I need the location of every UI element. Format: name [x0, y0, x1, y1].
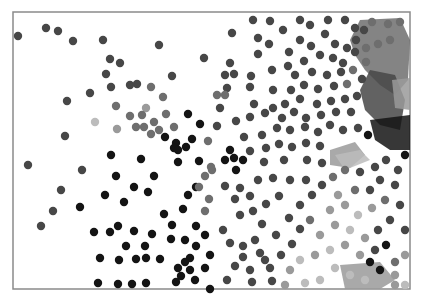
data-dot	[287, 86, 295, 94]
data-dot	[401, 251, 409, 259]
data-dot	[343, 44, 351, 52]
data-dot	[401, 281, 409, 289]
data-dot	[314, 85, 322, 93]
data-dot	[368, 204, 376, 212]
data-dot	[200, 54, 208, 62]
data-dot	[386, 216, 394, 224]
data-dot	[236, 211, 244, 219]
data-dot	[63, 97, 71, 105]
data-dot	[213, 91, 221, 99]
data-dot	[116, 59, 124, 67]
data-dot	[321, 30, 329, 38]
data-dot	[86, 89, 94, 97]
data-dot	[236, 184, 244, 192]
data-dot	[316, 276, 324, 284]
data-dot	[361, 276, 369, 284]
data-dot	[302, 114, 310, 122]
data-dot	[106, 228, 114, 236]
data-dot	[356, 251, 364, 259]
data-dot	[266, 264, 274, 272]
data-dot	[184, 191, 192, 199]
data-dot	[213, 122, 221, 130]
data-dot	[266, 17, 274, 25]
data-dot	[115, 256, 123, 264]
data-dot	[226, 146, 234, 154]
data-dot	[94, 279, 102, 287]
data-dot	[148, 230, 156, 238]
data-dot	[347, 108, 355, 116]
data-dot	[226, 59, 234, 67]
data-dot	[248, 278, 256, 286]
data-dot	[330, 82, 338, 90]
data-dot	[232, 166, 240, 174]
data-dot	[130, 183, 138, 191]
data-dot	[354, 211, 362, 219]
data-dot	[318, 159, 326, 167]
data-dot	[112, 102, 120, 110]
data-dot	[168, 72, 176, 80]
data-dot	[140, 123, 148, 131]
data-dot	[386, 36, 394, 44]
data-dot	[306, 21, 314, 29]
data-dot	[168, 221, 176, 229]
data-dot	[366, 258, 374, 266]
data-dot	[401, 226, 409, 234]
data-dot	[381, 196, 389, 204]
data-dot	[122, 242, 130, 250]
data-dot	[192, 222, 200, 230]
data-dot	[358, 75, 366, 83]
data-dot	[316, 231, 324, 239]
data-dot	[353, 92, 361, 100]
data-dot	[150, 118, 158, 126]
data-dot	[114, 280, 122, 288]
data-dot	[394, 166, 402, 174]
data-dot	[351, 48, 359, 56]
data-dot	[306, 216, 314, 224]
data-dot	[142, 254, 150, 262]
data-dot	[114, 222, 122, 230]
data-dot	[291, 71, 299, 79]
data-dot	[132, 123, 140, 131]
data-dot	[141, 242, 149, 250]
data-dot	[285, 48, 293, 56]
data-dot	[268, 66, 276, 74]
data-dot	[49, 207, 57, 215]
data-dot	[206, 251, 214, 259]
data-dot	[230, 70, 238, 78]
data-dot	[275, 140, 283, 148]
data-dot	[360, 26, 368, 34]
data-dot	[196, 120, 204, 128]
data-dot	[308, 191, 316, 199]
data-dot	[161, 133, 169, 141]
data-dot	[219, 226, 227, 234]
data-dot	[324, 16, 332, 24]
data-dot	[147, 83, 155, 91]
data-dot	[113, 125, 121, 133]
data-dot	[290, 108, 298, 116]
data-dot	[307, 42, 315, 50]
data-dot	[144, 188, 152, 196]
data-dot	[261, 109, 269, 117]
data-dot	[329, 54, 337, 62]
data-dot	[356, 168, 364, 176]
data-dot	[329, 173, 337, 181]
data-dot	[172, 278, 180, 286]
data-dot	[341, 166, 349, 174]
data-dot	[272, 231, 280, 239]
data-dot	[174, 264, 182, 272]
data-dot	[54, 27, 62, 35]
data-dot	[174, 146, 182, 154]
data-dot	[326, 121, 334, 129]
data-dot	[184, 110, 192, 118]
data-dot	[156, 255, 164, 263]
data-dot	[301, 123, 309, 131]
data-dot	[269, 86, 277, 94]
data-dot	[314, 128, 322, 136]
data-dot	[201, 172, 209, 180]
data-dot	[181, 258, 189, 266]
data-dot	[223, 276, 231, 284]
data-dot	[362, 58, 370, 66]
data-dot	[78, 166, 86, 174]
data-dot	[346, 271, 354, 279]
data-dot	[246, 113, 254, 121]
